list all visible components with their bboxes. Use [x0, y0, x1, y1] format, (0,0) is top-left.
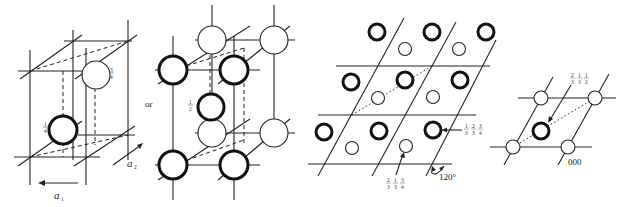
atom-front-bottom-right: [220, 151, 248, 179]
atom-labeled-thick: [425, 122, 441, 138]
axis-a1-label: a: [54, 189, 60, 201]
coord-label-inner: 211 332: [570, 72, 589, 85]
label-three-quarters: 3: [110, 67, 113, 73]
svg-text:2: 2: [387, 177, 390, 183]
atom-corner-top-left: [534, 91, 548, 105]
svg-text:1: 1: [578, 72, 581, 78]
atom-back-bottom-right: [260, 119, 288, 147]
atom-corner-bottom-left: [506, 140, 520, 154]
atom-back-top-left: [198, 26, 226, 54]
angle-label: 120°: [439, 172, 457, 182]
label-one-half: 1: [189, 99, 192, 105]
svg-text:2: 2: [134, 164, 137, 170]
svg-text:3: 3: [571, 79, 574, 85]
label-one-quarter: 1: [44, 121, 47, 127]
atom-lower: [49, 116, 77, 144]
hcp-structure-figure: 3 4 1 4 a 1 a 2 or: [0, 0, 633, 207]
atom-middle: [198, 94, 224, 120]
atom-back-bottom-left: [198, 119, 226, 147]
or-label: or: [145, 99, 153, 109]
svg-text:2: 2: [472, 123, 475, 129]
origin-label: 000: [568, 157, 582, 167]
svg-text:3: 3: [387, 184, 390, 190]
svg-text:4: 4: [401, 184, 404, 190]
svg-text:3: 3: [578, 79, 581, 85]
coord-label-thin: 213 334: [386, 177, 405, 190]
svg-text:2: 2: [571, 72, 574, 78]
atom-front-top-right: [220, 56, 248, 84]
coord-label-thick: 123 334: [464, 123, 483, 136]
svg-text:3: 3: [465, 130, 468, 136]
panel-c-plan-view: 123 334 213 334 120°: [308, 18, 496, 190]
atom-labeled-thin: [400, 140, 413, 153]
panel-b-alternate-cell: or 1 2: [145, 5, 295, 200]
svg-text:2: 2: [585, 79, 588, 85]
svg-text:3: 3: [472, 130, 475, 136]
svg-text:2: 2: [189, 106, 192, 112]
atom-front-bottom-left: [159, 151, 187, 179]
svg-text:3: 3: [401, 177, 404, 183]
svg-text:1: 1: [61, 196, 64, 202]
svg-text:4: 4: [110, 74, 113, 80]
svg-text:1: 1: [585, 72, 588, 78]
atom-upper: [82, 61, 110, 89]
axis-a2-label: a: [127, 157, 133, 169]
atom-inner: [533, 123, 549, 139]
svg-text:1: 1: [394, 177, 397, 183]
atom-corner-origin: [561, 140, 575, 154]
svg-text:3: 3: [394, 184, 397, 190]
atom-back-top-right: [260, 26, 288, 54]
panel-a-unit-cell: 3 4 1 4 a 1 a 2: [14, 20, 143, 202]
svg-text:3: 3: [479, 123, 482, 129]
panel-d-cell-plan: 211 332 000: [490, 72, 616, 167]
svg-text:4: 4: [44, 128, 47, 134]
svg-text:1: 1: [465, 123, 468, 129]
atom-front-top-left: [159, 56, 187, 84]
svg-text:4: 4: [479, 130, 482, 136]
atom-corner-top-right: [588, 91, 602, 105]
